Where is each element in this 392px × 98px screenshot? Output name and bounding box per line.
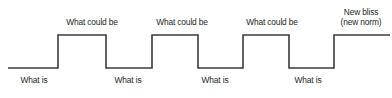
label-what-could-be-2: What could be [156, 18, 208, 28]
square-wave-graphic [0, 0, 392, 98]
diagram-canvas: What could be What could be What could b… [0, 0, 392, 98]
label-what-is-4: What is [295, 76, 322, 86]
label-new-bliss-line2: (new norm) [341, 18, 382, 28]
label-what-could-be-1: What could be [66, 18, 118, 28]
label-what-is-3: What is [202, 76, 229, 86]
square-wave-path [8, 35, 390, 68]
label-new-bliss: New bliss (new norm) [341, 8, 382, 27]
label-what-is-1: What is [21, 76, 48, 86]
label-new-bliss-line1: New bliss [344, 7, 379, 17]
label-what-could-be-3: What could be [246, 18, 298, 28]
label-what-is-2: What is [115, 76, 142, 86]
